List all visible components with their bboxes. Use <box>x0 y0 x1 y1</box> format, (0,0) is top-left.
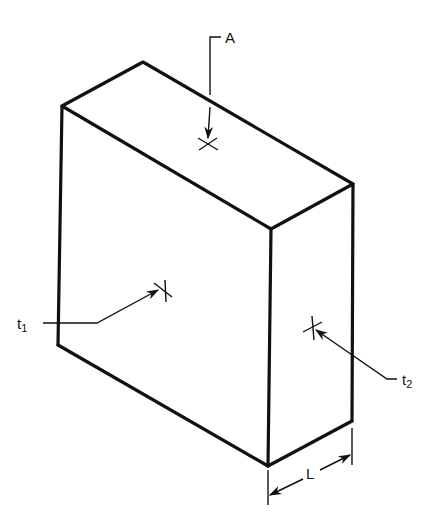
slab-diagram <box>0 0 443 532</box>
t1-leader <box>43 280 172 323</box>
area-label: A <box>225 30 235 45</box>
t1-label: t1 <box>17 316 27 334</box>
t2-label: t2 <box>402 372 412 390</box>
t2-leader <box>303 316 397 379</box>
slab-outline <box>58 62 353 466</box>
t1-subscript: 1 <box>21 322 27 334</box>
t2-subscript: 2 <box>406 378 412 390</box>
area-leader <box>198 37 221 150</box>
length-label: L <box>306 466 314 481</box>
